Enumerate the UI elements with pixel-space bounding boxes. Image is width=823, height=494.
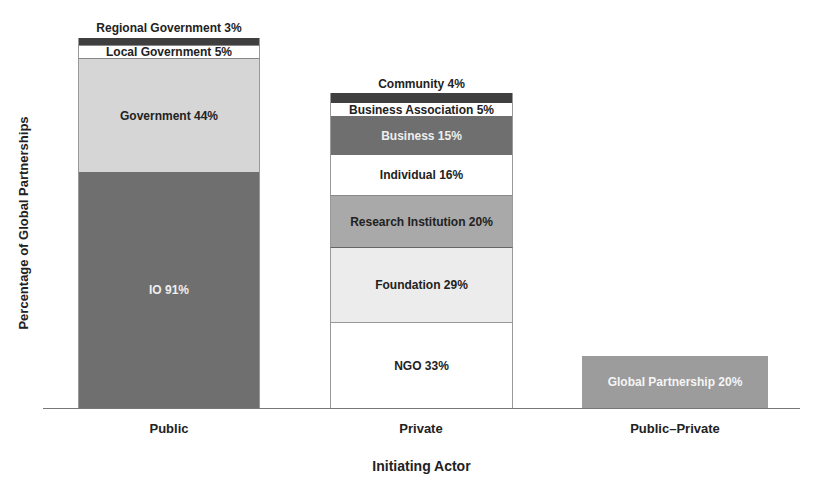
- x-axis-title: Initiating Actor: [330, 458, 513, 474]
- segment-label-regional-government: Regional Government 3%: [60, 21, 278, 35]
- segment-research-institution: Research Institution 20%: [330, 195, 513, 248]
- segment-io: IO 91%: [78, 172, 260, 408]
- stacked-bar-chart: Percentage of Global Partnerships Region…: [0, 0, 823, 494]
- x-axis-line: [43, 408, 800, 409]
- segment-label-community: Community 4%: [330, 77, 513, 91]
- segment-label-business-association: Business Association 5%: [349, 104, 494, 116]
- x-tick-private: Private: [330, 421, 512, 436]
- segment-business-association: Business Association 5%: [330, 103, 513, 116]
- segment-individual: Individual 16%: [330, 155, 513, 195]
- segment-ngo: NGO 33%: [330, 323, 513, 408]
- segment-foundation: Foundation 29%: [330, 248, 513, 323]
- segment-business: Business 15%: [330, 116, 513, 155]
- segment-community: [330, 93, 513, 103]
- segment-regional-government: [78, 38, 260, 45]
- segment-label-ngo: NGO 33%: [394, 359, 449, 373]
- segment-label-local-government: Local Government 5%: [106, 45, 232, 59]
- segment-global-partnership: Global Partnership 20%: [582, 356, 768, 408]
- segment-label-research-institution: Research Institution 20%: [350, 215, 493, 229]
- segment-local-government: Local Government 5%: [78, 45, 260, 58]
- segment-label-government: Government 44%: [120, 109, 218, 123]
- y-axis-title: Percentage of Global Partnerships: [16, 116, 31, 329]
- segment-government: Government 44%: [78, 58, 260, 172]
- x-tick-public: Public: [78, 421, 260, 436]
- segment-label-foundation: Foundation 29%: [375, 278, 468, 292]
- segment-label-io: IO 91%: [149, 283, 189, 297]
- segment-label-individual: Individual 16%: [380, 168, 463, 182]
- segment-label-global-partnership: Global Partnership 20%: [608, 375, 743, 389]
- x-tick-public-private: Public–Private: [582, 421, 768, 436]
- segment-label-business: Business 15%: [381, 129, 462, 143]
